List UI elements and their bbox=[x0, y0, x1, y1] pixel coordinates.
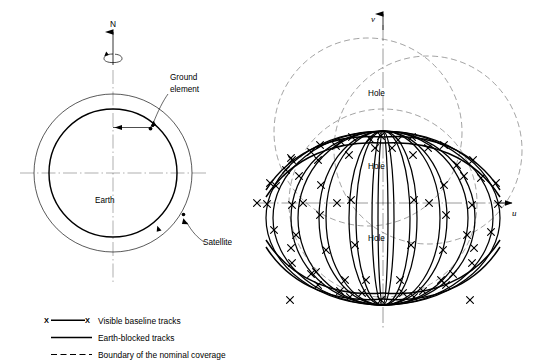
north-label: N bbox=[110, 19, 116, 29]
figure-canvas: N Ground element Earth Satellite bbox=[0, 0, 535, 363]
hole-label-top: Hole bbox=[368, 89, 385, 98]
satellite-leader-line bbox=[187, 222, 204, 242]
legend-label-boundary: Boundary of the nominal coverage bbox=[98, 350, 226, 360]
earth-label: Earth bbox=[95, 196, 115, 205]
marker-x bbox=[296, 173, 303, 180]
ground-element-dot bbox=[149, 127, 153, 131]
ground-element-leader-line bbox=[154, 94, 169, 123]
marker-x bbox=[425, 145, 432, 152]
ground-element-label-line2: element bbox=[170, 85, 200, 94]
legend-label-blocked-tracks: Earth-blocked tracks bbox=[98, 333, 174, 343]
marker-x bbox=[471, 245, 478, 252]
marker-x bbox=[469, 260, 476, 267]
marker-x bbox=[287, 297, 294, 304]
figure-root: N Ground element Earth Satellite bbox=[0, 0, 535, 363]
marker-x bbox=[372, 145, 379, 152]
marker-x bbox=[346, 152, 353, 159]
marker-x bbox=[450, 271, 457, 278]
satellite-label: Satellite bbox=[203, 238, 233, 247]
hole-label-bottom: Hole bbox=[368, 234, 385, 243]
satellite-dot bbox=[182, 213, 186, 217]
marker-x bbox=[467, 297, 474, 304]
marker-x bbox=[493, 180, 500, 187]
marker-x bbox=[288, 245, 295, 252]
marker-x bbox=[293, 232, 300, 239]
orbit-direction-arrowhead bbox=[157, 226, 162, 232]
marker-x bbox=[443, 212, 450, 219]
marker-x bbox=[317, 212, 324, 219]
marker-x bbox=[289, 260, 296, 267]
marker-x bbox=[410, 152, 417, 159]
legend-marker-right: X bbox=[85, 316, 90, 325]
legend-label-visible-tracks: Visible baseline tracks bbox=[98, 316, 181, 326]
u-axis-label: u bbox=[512, 208, 517, 218]
right-diagram-group: v u Hole Hole Hole bbox=[254, 14, 522, 330]
legend-marker-left: X bbox=[44, 316, 49, 325]
marker-x bbox=[478, 175, 485, 182]
left-diagram-group: N Ground element Earth Satellite bbox=[20, 19, 233, 283]
marker-x bbox=[461, 173, 468, 180]
ground-element-label-line1: Ground bbox=[170, 73, 198, 82]
rotation-arrowhead-icon bbox=[104, 52, 109, 57]
v-axis-label: v bbox=[371, 14, 375, 24]
ground-element-radius-arrowhead bbox=[115, 125, 123, 130]
hole-label-middle: Hole bbox=[368, 162, 385, 171]
legend-group: X X Visible baseline tracks Earth-blocke… bbox=[44, 316, 226, 360]
